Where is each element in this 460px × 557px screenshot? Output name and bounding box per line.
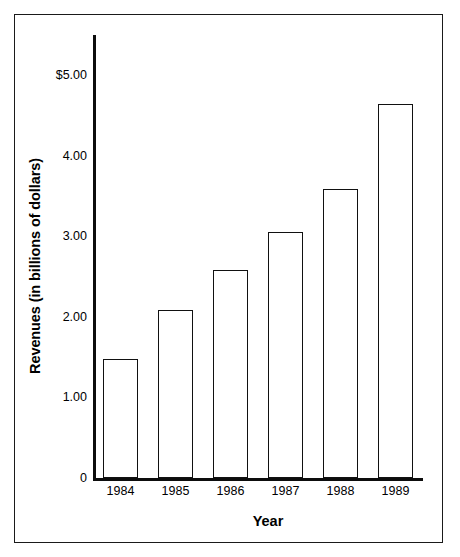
y-tick-label: 4.00 xyxy=(63,149,87,163)
x-tick-label: 1989 xyxy=(382,484,410,498)
bar xyxy=(268,232,303,478)
plot-area: $5.004.003.002.001.000 19841985198619871… xyxy=(93,35,435,478)
bar xyxy=(158,310,193,478)
bar xyxy=(103,359,138,478)
x-axis-line xyxy=(93,478,423,481)
x-tick-label: 1984 xyxy=(107,484,135,498)
x-tick-label: 1987 xyxy=(272,484,300,498)
y-tick-label: 0 xyxy=(80,471,87,485)
figure: Revenues (in billions of dollars) $5.004… xyxy=(0,0,460,557)
bar xyxy=(323,189,358,478)
y-tick-label: 2.00 xyxy=(63,310,87,324)
x-tick-label: 1986 xyxy=(217,484,245,498)
y-axis-line xyxy=(93,35,96,478)
y-tick-label: 1.00 xyxy=(63,390,87,404)
x-axis-title: Year xyxy=(93,513,443,529)
x-tick-label: 1985 xyxy=(162,484,190,498)
y-tick-label: 3.00 xyxy=(63,229,87,243)
bar xyxy=(378,104,413,478)
bar xyxy=(213,270,248,478)
y-axis-title: Revenues (in billions of dollars) xyxy=(27,146,43,386)
y-tick-label: $5.00 xyxy=(56,68,87,82)
x-tick-label: 1988 xyxy=(327,484,355,498)
